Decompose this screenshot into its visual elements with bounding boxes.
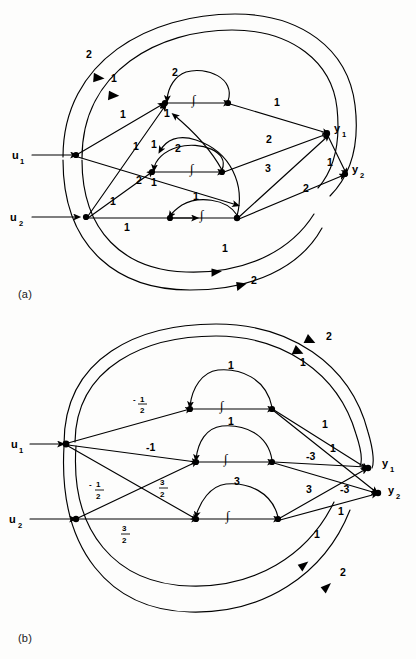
gain-int3-to-y2-a: 2 xyxy=(303,182,309,194)
edge-int3-to-y2-a xyxy=(239,175,344,219)
gain-int1-to-y1-b: 1 xyxy=(322,418,328,430)
edge-u2-to-int2-a xyxy=(88,172,152,218)
input-subscript-u1-a: 1 xyxy=(20,157,24,166)
node-y2-b xyxy=(375,490,381,496)
arrowhead-outer-bottom-b-2 xyxy=(321,581,335,594)
input-label-u1-b: u xyxy=(11,438,18,450)
gain-int1-to-y2-b: 1 xyxy=(330,442,336,454)
signal-flow-graph-panel-a: 2 1 1 2 u 1 u 2 1 2 xyxy=(0,0,416,330)
edge-u1-to-int3-b xyxy=(68,446,196,519)
gain-int3-to-y2-b: -3 xyxy=(340,483,349,495)
gain-int2-to-y1-b: -3 xyxy=(306,450,315,462)
edge-int3-to-y2-lower-b xyxy=(280,494,376,520)
gain-u2-to-int3-b: 3 2 xyxy=(121,524,130,545)
outer-loop-top-b-1 xyxy=(64,324,373,468)
fraction-denominator-bottom: 2 xyxy=(122,536,127,545)
edge-u1-to-int2-b xyxy=(68,445,196,462)
gain-int3-to-y1-b: 3 xyxy=(306,483,312,495)
fraction-numerator-upper: 1 xyxy=(140,395,145,404)
gain-u1-to-int2-a: 1 xyxy=(133,140,139,152)
fraction-sign-lower: - xyxy=(89,480,92,489)
output-label-y2-a: y xyxy=(352,163,359,175)
edge-int2-to-y1-a xyxy=(224,134,327,172)
gain-int2-to-y1-a: 2 xyxy=(266,133,272,145)
integrator-symbol-3-b: ∫ xyxy=(225,508,231,524)
signal-flow-graph-panel-b: 1 2 1 2 u 1 u 2 - 1 2 xyxy=(0,310,416,659)
gain-outer-bottom-b-2: 2 xyxy=(340,566,346,578)
fraction-denominator-upper: 2 xyxy=(140,406,145,415)
outer-loop-top-a-1 xyxy=(63,14,356,196)
gain-selfloop-int1-b: 1 xyxy=(228,359,234,371)
node-y2-a xyxy=(342,171,348,177)
gain-int3-to-y1-a: 3 xyxy=(265,162,271,174)
arrowhead-outer-bottom-a-1 xyxy=(210,267,222,276)
input-label-u2-b: u xyxy=(9,513,16,525)
output-label-y1-a: y xyxy=(334,122,341,134)
integrator-symbol-1-a: ∫ xyxy=(191,92,197,108)
edge-u2-to-int1-a xyxy=(88,106,165,216)
fraction-sign-upper: - xyxy=(133,395,136,404)
gain-u2-to-int3-a: 1 xyxy=(124,221,130,233)
gain-u1-to-int1-a: 1 xyxy=(120,108,126,120)
gain-u1-to-int1-b: - 1 2 xyxy=(133,395,147,415)
gain-selfloop-int2-a: 2 xyxy=(175,142,181,154)
figure-page: 2 1 1 2 u 1 u 2 1 2 xyxy=(0,0,416,659)
input-subscript-u2-a: 2 xyxy=(19,219,23,228)
caption-a: (a) xyxy=(18,288,32,300)
output-label-y1-b: y xyxy=(382,457,389,469)
edge-int1-to-y1-a xyxy=(230,104,327,133)
output-subscript-y1-b: 1 xyxy=(390,465,394,474)
gain-outer-bottom-b-1: 1 xyxy=(314,528,320,540)
output-label-y2-b: y xyxy=(388,484,395,496)
gain-selfloop-int2-b: 1 xyxy=(228,415,234,427)
integrator-symbol-2-a: ∫ xyxy=(189,161,195,177)
outer-loop-bottom-a-2 xyxy=(82,160,314,272)
selfloop-int2-b xyxy=(196,426,272,460)
integrator-symbol-3-a: ∫ xyxy=(199,207,205,223)
input-subscript-u2-b: 2 xyxy=(18,521,22,530)
fraction-denominator-diagonal: 2 xyxy=(160,490,165,499)
output-subscript-y2-b: 2 xyxy=(396,492,400,501)
input-label-u2-a: u xyxy=(10,211,17,223)
caption-b: (b) xyxy=(18,632,32,644)
node-y1-b xyxy=(365,465,371,471)
gain-selfloop-int3-b: 3 xyxy=(234,475,240,487)
gain-feedback-int2-lower-a: 1 xyxy=(151,176,157,188)
fraction-numerator-lower: 1 xyxy=(96,480,101,489)
gain-outer-top-a-2: 1 xyxy=(111,72,117,84)
output-subscript-y2-a: 2 xyxy=(360,171,364,180)
arrowhead-outer-top-b-2 xyxy=(304,334,318,347)
gain-int1-to-y1-a: 1 xyxy=(274,96,280,108)
input-label-u1-a: u xyxy=(12,149,19,161)
gain-outer-bottom-a-2: 2 xyxy=(251,274,257,286)
gain-outer-top-a-1: 2 xyxy=(86,48,92,60)
node-y1-a xyxy=(324,130,330,136)
output-subscript-y1-a: 1 xyxy=(342,130,346,139)
arrowhead-outer-top-a-2 xyxy=(106,89,120,100)
fraction-denominator-lower: 2 xyxy=(96,492,101,501)
edge-u1-to-int3-a xyxy=(78,157,237,205)
outer-loop-bottom-a-1 xyxy=(63,160,322,290)
fraction-numerator-bottom: 3 xyxy=(122,524,127,533)
feedback-int2-to-int1-a xyxy=(174,115,222,170)
input-subscript-u1-b: 1 xyxy=(19,446,23,455)
edge-int2-to-y2-b xyxy=(274,463,376,493)
arrowhead-outer-top-a-1 xyxy=(91,71,105,83)
gain-u2-to-int2-a: 1 xyxy=(110,195,116,207)
edge-int1-to-y1-b xyxy=(274,410,366,468)
integrator-symbol-1-b: ∫ xyxy=(219,398,225,414)
edge-int3-to-y1-b xyxy=(280,469,366,518)
gain-feedback-int3-a: 1 xyxy=(193,190,199,202)
selfloop-int2-a xyxy=(154,145,223,170)
arrowhead-outer-bottom-a-2 xyxy=(235,280,248,291)
gain-outer-top-b-1: 1 xyxy=(300,356,306,368)
gain-feedback-int2-upper-a: 1 xyxy=(151,138,157,150)
integrator-symbol-2-b: ∫ xyxy=(223,451,229,467)
selfloop-int1-b xyxy=(190,370,272,407)
outer-loop-bottom-b-1 xyxy=(64,446,350,612)
gain-y1-branch-to-y2-a: 1 xyxy=(327,156,333,168)
gain-u1-to-int2-b: -1 xyxy=(146,441,155,453)
gain-selfloop-int1-a: 2 xyxy=(172,66,178,78)
gain-u2-to-int2-b: - 1 2 xyxy=(89,480,104,501)
selfloop-int3-b xyxy=(196,484,278,517)
